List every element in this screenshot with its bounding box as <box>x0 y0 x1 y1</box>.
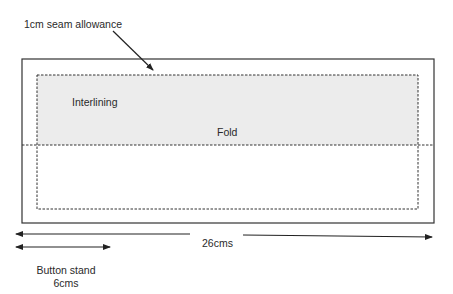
seam-allowance-label: 1cm seam allowance <box>24 18 122 30</box>
width-arrow-right <box>243 235 432 237</box>
seam-allowance-arrow <box>113 31 153 70</box>
interlining-label: Interlining <box>72 96 118 108</box>
pattern-diagram <box>0 0 453 294</box>
button-stand-measure: 6cms <box>30 277 102 289</box>
total-width-label: 26cms <box>202 237 233 249</box>
button-stand-label: Button stand <box>30 264 102 276</box>
fold-label: Fold <box>217 126 237 138</box>
